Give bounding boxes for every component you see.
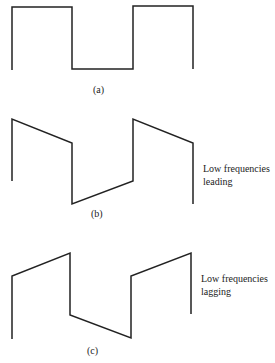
waveform-c-lagging <box>12 253 191 339</box>
figure-b-caption: Low frequencies leading <box>203 162 270 188</box>
waveform-b-leading <box>12 119 193 204</box>
caption-line: leading <box>203 175 270 188</box>
figure-b-label: (b) <box>91 208 103 219</box>
caption-line: Low frequencies <box>201 272 268 285</box>
caption-line: lagging <box>201 285 268 298</box>
figure-c-caption: Low frequencies lagging <box>201 272 268 298</box>
figure-a-label: (a) <box>93 84 104 95</box>
caption-line: Low frequencies <box>203 162 270 175</box>
figure-c-label: (c) <box>87 345 98 356</box>
waveform-a-square <box>12 6 193 70</box>
